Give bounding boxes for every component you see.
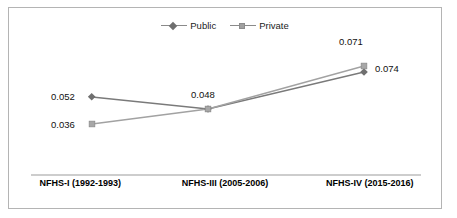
data-label-public-nfhs4: 0.074 bbox=[375, 63, 399, 74]
data-point-private-nfhs4 bbox=[361, 63, 367, 69]
data-label-mid-nfhs3: 0.048 bbox=[191, 89, 215, 100]
category-axis-labels: NFHS-I (1992-1993) NFHS-III (2005-2006) … bbox=[8, 178, 442, 210]
data-point-public-nfhs1 bbox=[88, 93, 96, 101]
category-label-nfhs4: NFHS-IV (2015-2016) bbox=[297, 178, 442, 210]
data-label-private-nfhs1: 0.036 bbox=[51, 119, 75, 130]
line-chart-figure: Public Private 0.0 bbox=[0, 0, 457, 218]
data-point-private-nfhs3 bbox=[205, 106, 211, 112]
clipped-caption-text bbox=[6, 0, 306, 5]
data-label-private-nfhs4: 0.071 bbox=[339, 36, 363, 47]
series-line-private bbox=[92, 66, 364, 124]
category-label-nfhs3: NFHS-III (2005-2006) bbox=[153, 178, 298, 210]
category-label-nfhs1: NFHS-I (1992-1993) bbox=[8, 178, 153, 210]
data-label-public-nfhs1: 0.052 bbox=[51, 91, 75, 102]
data-point-private-nfhs1 bbox=[89, 121, 95, 127]
data-point-public-nfhs4 bbox=[360, 68, 368, 76]
